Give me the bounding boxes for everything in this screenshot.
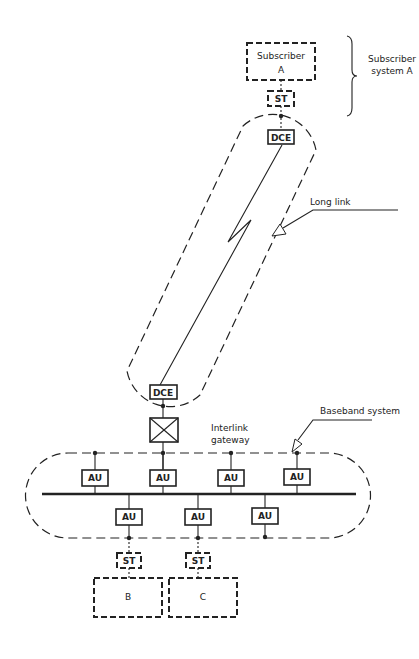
svg-text:AU: AU bbox=[156, 473, 170, 483]
svg-text:AU: AU bbox=[224, 473, 238, 483]
subscriber-a-box: Subscriber A bbox=[247, 43, 315, 80]
svg-text:ST: ST bbox=[123, 556, 136, 566]
svg-text:C: C bbox=[200, 592, 206, 602]
callout-arrow-icon bbox=[292, 439, 302, 452]
junction-dot bbox=[161, 404, 165, 408]
svg-text:AU: AU bbox=[290, 472, 304, 482]
au-box: AU bbox=[218, 470, 244, 486]
au-upper-group: AU AU AU AU bbox=[82, 451, 310, 494]
network-diagram: Subscriber A Subscriber system A ST DCE … bbox=[0, 0, 419, 659]
long-link-line bbox=[160, 145, 282, 385]
svg-text:DCE: DCE bbox=[271, 133, 291, 143]
long-link-label: Long link bbox=[310, 197, 351, 207]
brace-icon bbox=[347, 36, 357, 116]
st-b-box: ST bbox=[117, 553, 141, 568]
svg-text:AU: AU bbox=[88, 473, 102, 483]
dce-upper-box: DCE bbox=[268, 130, 294, 144]
svg-text:ST: ST bbox=[275, 94, 288, 104]
au-box: AU bbox=[284, 469, 310, 485]
interlink-gateway-label-2: gateway bbox=[211, 435, 250, 445]
au-box: AU bbox=[82, 470, 108, 486]
au-box: AU bbox=[185, 509, 211, 525]
subscriber-a-label-2: A bbox=[278, 65, 285, 75]
svg-text:ST: ST bbox=[192, 556, 205, 566]
au-box: AU bbox=[150, 470, 176, 486]
interlink-gateway-icon bbox=[150, 418, 178, 442]
st-a-box: ST bbox=[268, 91, 294, 106]
long-link-boundary bbox=[127, 114, 316, 406]
svg-text:B: B bbox=[125, 592, 131, 602]
callout-arrow-icon bbox=[272, 224, 286, 236]
au-box: AU bbox=[252, 508, 278, 524]
baseband-system-label: Baseband system bbox=[320, 406, 400, 416]
subscriber-system-a-label-2: system A bbox=[371, 66, 413, 76]
au-lower-group: AU AU AU bbox=[116, 494, 278, 540]
svg-text:DCE: DCE bbox=[153, 388, 173, 398]
subscriber-b-box: B bbox=[94, 578, 162, 617]
dce-lower-box: DCE bbox=[150, 385, 177, 399]
st-c-box: ST bbox=[186, 553, 210, 568]
subscriber-c-box: C bbox=[169, 578, 237, 617]
interlink-gateway-label-1: Interlink bbox=[211, 423, 249, 433]
subscriber-system-a-label-1: Subscriber bbox=[368, 54, 416, 64]
svg-text:AU: AU bbox=[191, 512, 205, 522]
svg-text:AU: AU bbox=[122, 512, 136, 522]
subscriber-a-label-1: Subscriber bbox=[257, 51, 305, 61]
svg-text:AU: AU bbox=[258, 511, 272, 521]
au-box: AU bbox=[116, 509, 142, 525]
